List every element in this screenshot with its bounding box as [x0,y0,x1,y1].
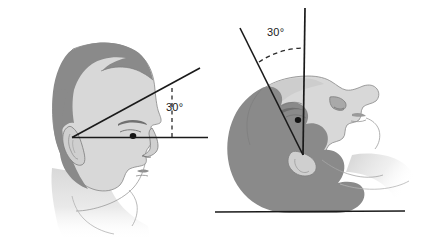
pupil-supine [295,117,301,123]
supine-head-reclined [0,0,423,239]
chin-supine [366,118,380,149]
support-surface-line [215,211,405,212]
dashed-angle-arc [259,48,304,62]
illustration-canvas: 30° 30° [0,0,423,239]
angle-label-upright: 30° [166,101,183,113]
lips-supine [352,113,366,117]
angle-label-supine: 30° [267,26,284,38]
